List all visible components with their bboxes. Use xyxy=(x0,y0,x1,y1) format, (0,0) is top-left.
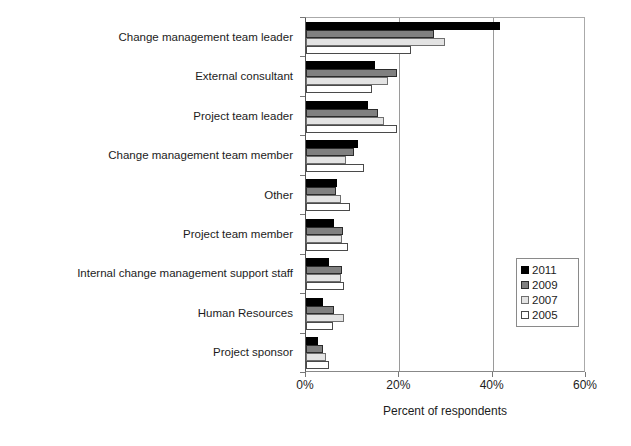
bar-2005[interactable] xyxy=(306,322,333,330)
bar-2011[interactable] xyxy=(306,337,318,345)
legend-item-2005[interactable]: 2005 xyxy=(521,307,574,322)
bar-2007[interactable] xyxy=(306,156,346,164)
bar-2011[interactable] xyxy=(306,179,337,187)
category-label: Change management team leader xyxy=(118,30,293,43)
category-label: Internal change management support staff xyxy=(77,267,293,280)
bar-2009[interactable] xyxy=(306,306,334,314)
x-tick-mark xyxy=(492,372,493,377)
bar-group xyxy=(306,97,584,136)
legend-item-2007[interactable]: 2007 xyxy=(521,292,574,307)
bar-2011[interactable] xyxy=(306,258,329,266)
bar-2011[interactable] xyxy=(306,140,358,148)
category-label: Project sponsor xyxy=(213,346,293,359)
bar-2007[interactable] xyxy=(306,117,384,125)
x-tick-mark xyxy=(305,372,306,377)
category-label: Change management team member xyxy=(108,149,293,162)
bar-2011[interactable] xyxy=(306,22,500,30)
dark-gray-square-swatch xyxy=(521,281,529,289)
x-tick-label: 60% xyxy=(573,378,597,392)
category-label: External consultant xyxy=(195,70,293,83)
bar-2011[interactable] xyxy=(306,101,368,109)
bar-2005[interactable] xyxy=(306,203,350,211)
legend-label: 2005 xyxy=(532,309,558,321)
bar-2009[interactable] xyxy=(306,148,354,156)
white-square-swatch xyxy=(521,311,529,319)
legend-item-2009[interactable]: 2009 xyxy=(521,277,574,292)
legend-label: 2009 xyxy=(532,279,558,291)
bar-2007[interactable] xyxy=(306,195,341,203)
bar-2011[interactable] xyxy=(306,61,375,69)
bar-2005[interactable] xyxy=(306,46,411,54)
bar-2009[interactable] xyxy=(306,266,342,274)
bar-2009[interactable] xyxy=(306,345,323,353)
category-label: Human Resources xyxy=(198,306,293,319)
bar-2009[interactable] xyxy=(306,69,397,77)
bar-group xyxy=(306,215,584,254)
category-label: Other xyxy=(264,188,293,201)
legend-label: 2011 xyxy=(532,264,557,276)
bar-2005[interactable] xyxy=(306,125,397,133)
legend[interactable]: 2011200920072005 xyxy=(516,258,579,327)
bar-2005[interactable] xyxy=(306,164,364,172)
category-label: Project team leader xyxy=(193,109,293,122)
bar-2005[interactable] xyxy=(306,361,329,369)
bar-2009[interactable] xyxy=(306,187,336,195)
x-tick-label: 20% xyxy=(386,378,410,392)
bar-2011[interactable] xyxy=(306,298,323,306)
bar-group xyxy=(306,136,584,175)
bar-chart-figure: Change management team leaderExternal co… xyxy=(0,0,631,446)
value-axis: 0%20%40%60% xyxy=(305,372,585,396)
bar-2009[interactable] xyxy=(306,227,343,235)
bar-group xyxy=(306,334,584,373)
legend-label: 2007 xyxy=(532,294,558,306)
bar-group xyxy=(306,18,584,57)
x-axis-title: Percent of respondents xyxy=(305,404,585,418)
bar-2007[interactable] xyxy=(306,274,341,282)
bar-group xyxy=(306,57,584,96)
bar-2011[interactable] xyxy=(306,219,334,227)
bar-2009[interactable] xyxy=(306,109,378,117)
x-tick-mark xyxy=(585,372,586,377)
bar-2005[interactable] xyxy=(306,85,372,93)
bar-2007[interactable] xyxy=(306,235,342,243)
black-square-swatch xyxy=(521,266,529,274)
bar-2005[interactable] xyxy=(306,282,344,290)
x-tick-label: 0% xyxy=(296,378,313,392)
bar-2007[interactable] xyxy=(306,353,326,361)
bar-2005[interactable] xyxy=(306,243,348,251)
category-label: Project team member xyxy=(183,227,293,240)
bar-2009[interactable] xyxy=(306,30,434,38)
x-tick-mark xyxy=(398,372,399,377)
legend-item-2011[interactable]: 2011 xyxy=(521,262,574,277)
bar-group xyxy=(306,176,584,215)
bar-2007[interactable] xyxy=(306,38,445,46)
bar-2007[interactable] xyxy=(306,77,388,85)
bar-2007[interactable] xyxy=(306,314,344,322)
x-tick-label: 40% xyxy=(480,378,504,392)
category-axis-labels: Change management team leaderExternal co… xyxy=(0,17,300,372)
light-gray-square-swatch xyxy=(521,296,529,304)
